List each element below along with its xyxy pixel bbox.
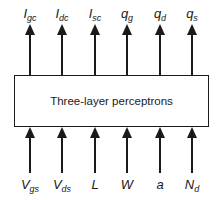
output-label-isc: Isc bbox=[89, 7, 102, 23]
output-arrow-2-arrowhead-icon bbox=[90, 24, 100, 35]
input-arrow-3-arrowhead-icon bbox=[122, 127, 132, 138]
subscript: d bbox=[194, 184, 199, 194]
subscript: gs bbox=[30, 184, 40, 194]
subscript: g bbox=[128, 13, 133, 23]
three-layer-perceptron-block: Three-layer perceptrons bbox=[14, 75, 209, 127]
output-arrow-0-arrowhead-icon bbox=[25, 24, 35, 35]
subscript: s bbox=[193, 13, 198, 23]
input-label-l: L bbox=[91, 178, 98, 191]
input-label-nd: Nd bbox=[185, 178, 199, 194]
block-label: Three-layer perceptrons bbox=[50, 95, 173, 107]
output-arrow-3-arrowhead-icon bbox=[122, 24, 132, 35]
symbol: L bbox=[91, 177, 98, 192]
output-label-igc: Igc bbox=[23, 7, 36, 23]
symbol: W bbox=[121, 177, 133, 192]
output-arrow-5-arrowhead-icon bbox=[187, 24, 197, 35]
subscript: sc bbox=[92, 13, 101, 23]
symbol: V bbox=[53, 177, 62, 192]
input-arrow-4-arrowhead-icon bbox=[155, 127, 165, 138]
input-arrow-2-arrowhead-icon bbox=[90, 127, 100, 138]
output-label-qg: qg bbox=[121, 7, 133, 23]
subscript: gc bbox=[27, 13, 37, 23]
input-label-w: W bbox=[121, 178, 133, 191]
subscript: d bbox=[161, 13, 166, 23]
symbol: a bbox=[156, 177, 163, 192]
input-arrow-5-arrowhead-icon bbox=[187, 127, 197, 138]
output-label-qs: qs bbox=[186, 7, 198, 23]
input-label-a: a bbox=[156, 178, 163, 191]
symbol: V bbox=[21, 177, 30, 192]
output-label-idc: Idc bbox=[55, 7, 68, 23]
subscript: ds bbox=[62, 184, 72, 194]
input-arrow-0-arrowhead-icon bbox=[25, 127, 35, 138]
output-label-qd: qd bbox=[154, 7, 166, 23]
symbol: N bbox=[185, 177, 194, 192]
subscript: dc bbox=[59, 13, 69, 23]
input-arrow-1-arrowhead-icon bbox=[57, 127, 67, 138]
output-arrow-1-arrowhead-icon bbox=[57, 24, 67, 35]
output-arrow-4-arrowhead-icon bbox=[155, 24, 165, 35]
input-label-vds: Vds bbox=[53, 178, 71, 194]
input-label-vgs: Vgs bbox=[21, 178, 39, 194]
